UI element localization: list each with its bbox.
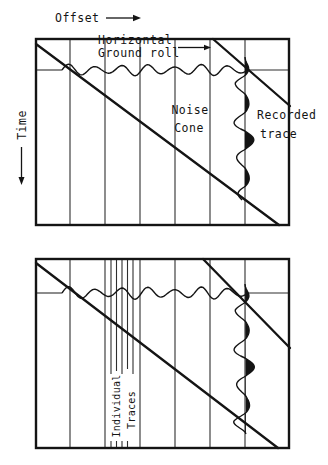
recorded-trace-wiggle [234, 284, 255, 434]
time-arrow-icon [19, 147, 25, 185]
noise-cone-edge-line [36, 44, 279, 225]
seismic-noise-cone-figure: Offset Time Horizon [0, 0, 328, 465]
offset-axis: Offset [55, 11, 141, 25]
ground-roll-pointer-arrow-icon [178, 45, 211, 51]
offset-arrow-icon [106, 15, 141, 21]
offset-axis-label: Offset [55, 11, 100, 25]
noise-cone-label-line1: Noise [171, 103, 208, 117]
recorded-trace-wiggle [234, 57, 254, 200]
ground-roll-label-line2: Ground roll [98, 46, 180, 60]
individual-traces-label-line1: Individual [111, 374, 122, 437]
lower-panel: Individual Traces [36, 259, 290, 448]
noise-cone-edge-line [213, 39, 290, 106]
time-axis-label: Time [15, 110, 29, 140]
recorded-trace-label-line1: Recorded [257, 108, 316, 122]
upper-panel-border [36, 39, 289, 225]
individual-traces-label-line2: Traces [126, 391, 137, 429]
ground-roll-wiggle [62, 287, 245, 299]
time-axis: Time [15, 110, 29, 185]
noise-cone-label-line2: Cone [174, 121, 204, 135]
recorded-trace-label-line2: trace [260, 127, 297, 141]
upper-panel: Horizontal Ground roll Noise Cone Record… [36, 33, 316, 225]
noise-cone-edge-line [36, 263, 278, 448]
lower-panel-border [36, 259, 289, 448]
ground-roll-wiggle [62, 64, 245, 75]
